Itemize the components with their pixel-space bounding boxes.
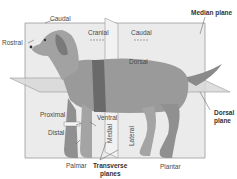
label-distal: Distal (48, 130, 64, 137)
label-dorsal-plane-2: plane (214, 118, 231, 125)
label-dorsal-plane-1: Dorsal (214, 110, 234, 117)
label-transverse-1: Transverse (93, 163, 127, 170)
label-lateral: Lateral (129, 126, 136, 146)
label-caudal-top: Caudal (50, 16, 71, 23)
dog-planes-illustration (0, 0, 237, 179)
label-ventral: Ventral (97, 115, 117, 122)
label-transverse-2: planes (100, 171, 121, 178)
label-cranial: Cranial (88, 30, 109, 37)
label-caudal: Caudal (131, 30, 152, 37)
label-median-plane: Median plane (191, 10, 232, 17)
label-proximal: Proximal (40, 112, 65, 119)
label-rostral: Rostral (2, 40, 23, 47)
anatomy-diagram: Caudal Rostral Cranial Caudal Median pla… (0, 0, 237, 179)
label-dorsal: Dorsal (129, 59, 148, 66)
label-palmar: Palmar (66, 163, 87, 170)
label-plantar: Plantar (160, 164, 181, 171)
label-medial: Medial (107, 124, 114, 143)
